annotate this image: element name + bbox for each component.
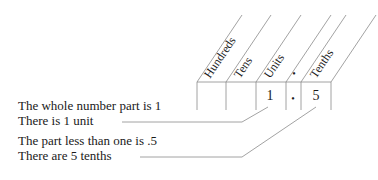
cell-point: • bbox=[291, 93, 295, 104]
annotation-whole: The whole number part is 1 There is 1 un… bbox=[18, 98, 161, 128]
header-units: Units bbox=[261, 51, 287, 81]
annotation-whole-line1: The whole number part is 1 bbox=[18, 98, 161, 113]
header-tens: Tens bbox=[231, 54, 255, 81]
annotation-fraction: The part less than one is .5 There are 5… bbox=[18, 133, 157, 163]
cell-units: 1 bbox=[267, 88, 274, 103]
annotation-whole-line2: There is 1 unit bbox=[18, 113, 161, 128]
annotation-fraction-line2: There are 5 tenths bbox=[18, 148, 157, 163]
header-point: • bbox=[292, 68, 296, 79]
annotation-fraction-line1: The part less than one is .5 bbox=[18, 133, 157, 148]
cell-tenths: 5 bbox=[313, 88, 320, 103]
header-tenths: Tenths bbox=[307, 46, 337, 80]
